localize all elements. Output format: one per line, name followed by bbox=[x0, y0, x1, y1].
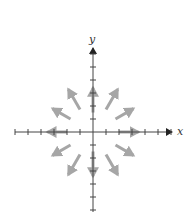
vector-arrow-icon bbox=[116, 145, 134, 155]
x-axis-label: x bbox=[177, 126, 183, 137]
coordinate-axes bbox=[15, 48, 172, 212]
y-axis-label: y bbox=[89, 34, 95, 45]
vector-arrow-icon bbox=[68, 155, 80, 175]
vector-arrow-icon bbox=[116, 109, 134, 119]
vector-arrow-icon bbox=[106, 89, 118, 109]
vector-field-diagram bbox=[0, 0, 194, 224]
vector-arrow-icon bbox=[53, 145, 71, 155]
vector-arrow-icon bbox=[106, 155, 118, 175]
vector-arrow-icon bbox=[53, 109, 71, 119]
vector-arrow-icon bbox=[68, 89, 80, 109]
